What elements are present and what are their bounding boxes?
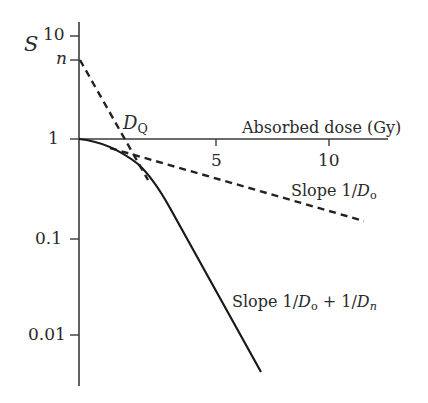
y-axis-label: S — [24, 34, 38, 55]
y-tick-label-10: 10 — [43, 26, 65, 43]
dq-annotation: DQ — [123, 114, 148, 135]
slope2-sub2: n — [370, 300, 377, 313]
slope1-d: D — [357, 181, 370, 200]
slope2-prefix: Slope 1/ — [232, 292, 298, 311]
slope2-d1: D — [298, 292, 311, 311]
slope2-mid: + 1/ — [318, 292, 357, 311]
y-tick-label-n: n — [56, 50, 67, 67]
slope2-sub1: o — [311, 300, 318, 313]
y-tick-label-0.01: 0.01 — [28, 326, 66, 343]
slope1-sub: o — [370, 189, 377, 202]
x-tick-label-10: 10 — [318, 152, 340, 169]
slope-d0-annotation: Slope 1/Do — [291, 183, 377, 202]
y-tick-label-1: 1 — [48, 130, 59, 147]
dq-main: D — [123, 112, 137, 133]
dq-sub: Q — [137, 121, 147, 136]
slope1-prefix: Slope 1/ — [291, 181, 357, 200]
x-axis-label: Absorbed dose (Gy) — [242, 120, 401, 136]
slope-d0-dn-annotation: Slope 1/Do + 1/Dn — [232, 294, 377, 313]
survival-curve-solid — [79, 139, 261, 372]
x-tick-label-5: 5 — [211, 152, 222, 169]
slope2-d2: D — [357, 292, 370, 311]
y-tick-label-0.1: 0.1 — [35, 230, 62, 247]
